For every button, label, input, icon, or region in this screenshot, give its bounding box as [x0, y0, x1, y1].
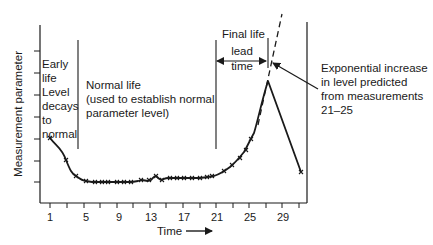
early-life-line: Level [42, 86, 70, 98]
annotation-pointer-arrow-icon [273, 63, 318, 89]
annotation-line: in level predicted [321, 76, 407, 88]
early-life-line: decays [42, 100, 79, 112]
annotation-line: from measurements [321, 90, 424, 102]
diagram-canvas: 1 5 9 13 17 21 25 29 Time Measurement pa… [0, 0, 433, 245]
normal-life-line: (used to establish normal [86, 93, 214, 105]
exponential-annotation: Exponential increase in level predicted … [321, 62, 428, 116]
lead-time-label: lead [231, 45, 253, 57]
early-life-line: Early [42, 58, 68, 70]
lead-time-label: time [231, 60, 253, 72]
x-tick-labels: 1 5 9 13 17 21 25 29 [47, 211, 289, 223]
data-point-markers [48, 136, 303, 184]
x-tick-label: 29 [277, 211, 289, 223]
early-life-line: life [42, 72, 57, 84]
x-tick-label: 17 [178, 211, 190, 223]
x-tick-label: 9 [116, 211, 122, 223]
early-life-line: to [42, 114, 52, 126]
normal-life-label: Normal life (used to establish normal pa… [86, 79, 214, 119]
annotation-line: 21–25 [321, 104, 353, 116]
x-tick-label: 21 [211, 211, 223, 223]
x-tick-label: 5 [83, 211, 89, 223]
x-tick-label: 13 [145, 211, 157, 223]
normal-life-line: parameter level) [86, 107, 169, 119]
annotation-line: Exponential increase [321, 62, 428, 74]
x-tick-label: 1 [47, 211, 53, 223]
y-axis-ticks [34, 51, 40, 182]
final-life-label: Final life [222, 28, 265, 40]
y-axis-label: Measurement parameter [12, 51, 24, 177]
chart-frame [40, 22, 307, 203]
early-life-label: Early life Level decays to normal [42, 58, 79, 140]
x-axis-label: Time [157, 225, 182, 237]
x-tick-label: 25 [244, 211, 256, 223]
normal-life-line: Normal life [86, 79, 141, 91]
x-axis-ticks [50, 203, 299, 208]
early-life-line: normal [42, 128, 77, 140]
